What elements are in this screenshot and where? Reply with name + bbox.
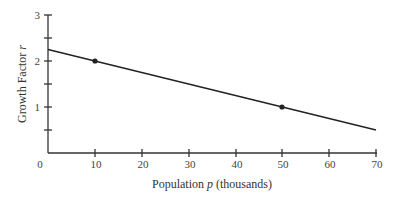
x-tick-label: 10 [91,158,103,170]
x-tick-label: 0 [37,158,43,170]
y-axis-title: Growth Factor r [15,45,29,123]
x-tick-label: 60 [325,158,337,170]
chart: 3 2 1 0 10 20 30 40 50 60 70 Population … [0,0,407,199]
x-tick-labels: 0 10 20 30 40 50 60 70 [37,158,383,170]
x-tick-label: 30 [185,158,197,170]
x-tick-label: 40 [232,158,244,170]
x-tick-label: 20 [138,158,150,170]
y-tick-label: 3 [35,9,41,21]
data-point [92,58,97,63]
y-tick-labels: 3 2 1 [35,9,41,113]
y-tick-label: 1 [35,101,41,113]
data-point [279,104,284,109]
x-tick-label: 50 [278,158,290,170]
x-axis-title: Population p (thousands) [152,177,272,191]
x-tick-label: 70 [372,158,384,170]
y-tick-label: 2 [35,55,41,67]
